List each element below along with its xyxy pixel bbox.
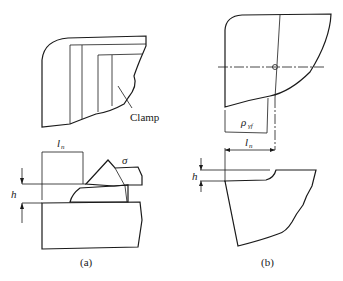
tool-body-a bbox=[42, 202, 142, 249]
h-label-b: h bbox=[192, 170, 198, 182]
tool-top-view-b bbox=[225, 14, 331, 107]
dimension-h-a: h bbox=[11, 168, 86, 223]
svg-text:n: n bbox=[249, 142, 253, 150]
svg-text:n: n bbox=[61, 143, 65, 151]
panel-b: ρ γf l n h (b) bbox=[192, 14, 331, 269]
panel-a: Clamp l n h bbox=[11, 36, 160, 269]
caption-b: (b) bbox=[261, 256, 274, 269]
chip-breaker-a bbox=[86, 160, 142, 186]
tool-geometry-diagram: Clamp l n h bbox=[0, 0, 343, 281]
clamp-leader bbox=[118, 86, 132, 108]
insert-a bbox=[70, 185, 128, 202]
sigma-label: σ bbox=[122, 154, 128, 166]
h-label-a: h bbox=[11, 188, 17, 200]
dimension-h-b: h bbox=[192, 158, 270, 192]
caption-a: (a) bbox=[80, 256, 93, 269]
dimension-ln-b: l n bbox=[225, 136, 275, 182]
ln-label-a: l bbox=[57, 137, 60, 149]
dimension-rho: ρ γf bbox=[225, 98, 268, 133]
rho-label: ρ bbox=[240, 116, 246, 128]
ln-label-b: l bbox=[245, 136, 248, 148]
tool-body-b bbox=[225, 170, 316, 246]
svg-text:γf: γf bbox=[248, 122, 254, 130]
clamp-label: Clamp bbox=[130, 111, 160, 123]
